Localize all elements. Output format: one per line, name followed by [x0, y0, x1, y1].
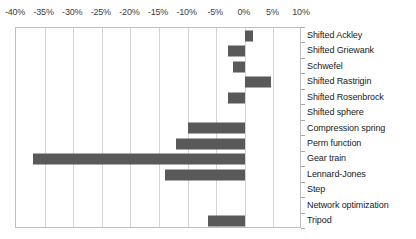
category-label: Lennard-Jones [307, 169, 366, 179]
bar-row [16, 43, 300, 58]
row-tick [301, 197, 305, 198]
category-label: Shifted Ackley [307, 30, 362, 40]
bar-row [16, 198, 300, 213]
row-tick [301, 27, 305, 28]
bar [165, 169, 245, 180]
row-tick [301, 166, 305, 167]
row-tick [301, 89, 305, 90]
row-tick [301, 42, 305, 43]
x-tick-label: -5% [207, 7, 222, 17]
bar-row [16, 121, 300, 136]
bar [176, 138, 245, 149]
x-tick-label: 0% [237, 7, 250, 17]
horizontal-bar-chart: -40%-35%-30%-25%-20%-15%-10%-5%0%5%10% S… [0, 0, 416, 239]
category-label: Network optimization [307, 200, 389, 210]
x-tick-label: -25% [91, 7, 111, 17]
bar-row [16, 136, 300, 151]
row-tick [301, 104, 305, 105]
x-tick-label: -30% [62, 7, 82, 17]
row-tick [301, 120, 305, 121]
category-label: Perm function [307, 138, 361, 148]
category-label: Shifted sphere [307, 107, 364, 117]
category-label: Step [307, 184, 325, 194]
category-labels: Shifted AckleyShifted GriewankSchwefelSh… [307, 27, 416, 228]
row-tick [301, 73, 305, 74]
row-tick [301, 228, 305, 229]
category-label: Schwefel [307, 61, 343, 71]
category-label: Shifted Rosenbrock [307, 92, 384, 102]
category-label: Shifted Rastrigin [307, 76, 371, 86]
x-tick-label: -10% [176, 7, 196, 17]
bar-row [16, 213, 300, 228]
row-tick [301, 135, 305, 136]
x-tick-label: 10% [292, 7, 309, 17]
x-tick-label: -15% [148, 7, 168, 17]
bar-row [16, 90, 300, 105]
x-tick-label: -35% [33, 7, 53, 17]
bar-row [16, 74, 300, 89]
bar [33, 154, 245, 165]
x-axis-tick-labels: -40%-35%-30%-25%-20%-15%-10%-5%0%5%10% [0, 0, 416, 27]
bar [245, 30, 254, 41]
x-tick-label: 5% [266, 7, 279, 17]
bar [233, 61, 244, 72]
x-tick-label: -40% [5, 7, 25, 17]
category-label: Shifted Griewank [307, 45, 374, 55]
bar [228, 46, 245, 57]
category-label: Tripod [307, 215, 332, 225]
bar-row [16, 105, 300, 120]
category-label: Gear train [307, 153, 346, 163]
bar-row [16, 183, 300, 198]
row-tick [301, 151, 305, 152]
category-label: Compression spring [307, 123, 385, 133]
plot-area [15, 27, 301, 228]
row-tick [301, 213, 305, 214]
row-tick [301, 182, 305, 183]
bar [245, 77, 271, 88]
bar [228, 92, 245, 103]
bar-row [16, 59, 300, 74]
x-tick-label: -20% [119, 7, 139, 17]
bar [188, 123, 245, 134]
bar-row [16, 28, 300, 43]
row-tick [301, 58, 305, 59]
bar-row [16, 167, 300, 182]
bar-series [16, 28, 300, 227]
bar-row [16, 152, 300, 167]
bar [208, 216, 245, 227]
